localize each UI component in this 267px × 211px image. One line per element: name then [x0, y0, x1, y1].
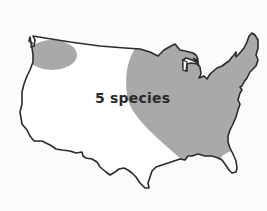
lake-michigan [183, 60, 187, 71]
species-count-label: 5 species [95, 90, 170, 106]
species-range-map: 5 species [0, 0, 267, 211]
